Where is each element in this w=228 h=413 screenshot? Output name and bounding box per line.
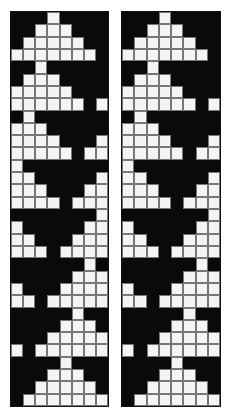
grid-cell (60, 283, 72, 295)
grid-cell (134, 234, 146, 246)
grid-cell (208, 135, 220, 147)
grid-cell (96, 344, 108, 356)
grid-cell (11, 369, 23, 381)
grid-cell (96, 283, 108, 295)
grid-cell (208, 74, 220, 86)
grid-cell (23, 221, 35, 233)
grid-cell (60, 197, 72, 209)
grid-cell (72, 160, 84, 172)
grid-cell (134, 283, 146, 295)
grid-cell (171, 283, 183, 295)
grid-cell (183, 308, 195, 320)
grid-cell (208, 258, 220, 270)
grid-cell (96, 98, 108, 110)
grid-cell (134, 123, 146, 135)
grid-cell (47, 172, 59, 184)
grid-cell (159, 135, 171, 147)
grid-cell (147, 123, 159, 135)
grid-cell (35, 74, 47, 86)
grid-cell (196, 86, 208, 98)
grid-cell (72, 283, 84, 295)
grid-cell (11, 258, 23, 270)
grid-cell (84, 357, 96, 369)
grid-cell (122, 320, 134, 332)
grid-cell (72, 332, 84, 344)
grid-cell (183, 344, 195, 356)
grid-cell (147, 357, 159, 369)
grid-cell (60, 271, 72, 283)
grid-cell (60, 221, 72, 233)
grid-cell (171, 86, 183, 98)
grid-cell (96, 74, 108, 86)
grid-cell (122, 221, 134, 233)
grid-cell (159, 283, 171, 295)
grid-cell (72, 271, 84, 283)
grid-cell (47, 308, 59, 320)
grid-cell (60, 98, 72, 110)
grid-cell (84, 381, 96, 393)
grid-cell (60, 295, 72, 307)
grid-cell (183, 246, 195, 258)
grid-cell (208, 98, 220, 110)
grid-cell (208, 172, 220, 184)
grid-cell (171, 49, 183, 61)
grid-cell (171, 135, 183, 147)
grid-cell (96, 37, 108, 49)
grid-cell (72, 209, 84, 221)
grid-cell (159, 357, 171, 369)
grid-cell (96, 147, 108, 159)
grid-cell (47, 147, 59, 159)
grid-cell (171, 246, 183, 258)
grid-cell (122, 184, 134, 196)
grid-cell (171, 320, 183, 332)
grid-cell (23, 295, 35, 307)
grid-cell (60, 234, 72, 246)
grid-cell (96, 246, 108, 258)
grid-cell (122, 86, 134, 98)
grid-cell (11, 295, 23, 307)
grid-cell (60, 258, 72, 270)
grid-cell (208, 320, 220, 332)
grid-cell (159, 271, 171, 283)
grid-cell (84, 197, 96, 209)
grid-cell (84, 246, 96, 258)
grid-cell (47, 61, 59, 73)
grid-cell (147, 246, 159, 258)
grid-cell (35, 295, 47, 307)
grid-cell (208, 184, 220, 196)
grid-cell (47, 234, 59, 246)
grid-cell (183, 98, 195, 110)
grid-cell (23, 357, 35, 369)
grid-cell (35, 258, 47, 270)
grid-cell (72, 394, 84, 406)
grid-cell (35, 246, 47, 258)
grid-cell (47, 283, 59, 295)
grid-cell (47, 369, 59, 381)
grid-cell (23, 135, 35, 147)
grid-cell (147, 111, 159, 123)
grid-cell (84, 123, 96, 135)
grid-cell (11, 271, 23, 283)
grid-cell (171, 111, 183, 123)
grid-cell (171, 344, 183, 356)
grid-cell (147, 258, 159, 270)
grid-cell (196, 344, 208, 356)
grid-cell (47, 381, 59, 393)
grid-cell (171, 357, 183, 369)
grid-cell (159, 394, 171, 406)
grid-cell (147, 74, 159, 86)
grid-cell (11, 209, 23, 221)
grid-cell (47, 344, 59, 356)
grid-cell (196, 12, 208, 24)
grid-cell (122, 209, 134, 221)
grid-cell (183, 184, 195, 196)
grid-cell (171, 160, 183, 172)
grid-cell (60, 344, 72, 356)
grid-cell (122, 283, 134, 295)
grid-cell (72, 258, 84, 270)
grid-cell (196, 172, 208, 184)
grid-cell (23, 160, 35, 172)
grid-cell (60, 209, 72, 221)
grid-cell (96, 381, 108, 393)
grid-cell (47, 332, 59, 344)
